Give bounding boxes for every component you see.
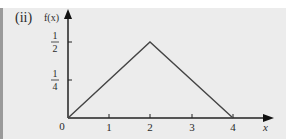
- y-tick-label-half: 1 2: [51, 30, 59, 54]
- svg-text:2: 2: [53, 43, 58, 54]
- y-axis-arrow-icon: [64, 9, 72, 19]
- y-tick-label-quarter: 1 4: [51, 68, 59, 92]
- x-tick-label-2: 2: [147, 121, 153, 133]
- chart-svg: 0 1 2 3 4 1 2 1 4 f(x) x: [0, 0, 286, 139]
- origin-label: 0: [59, 120, 65, 132]
- y-axis-label: f(x): [44, 12, 59, 24]
- svg-text:1: 1: [53, 68, 58, 79]
- svg-text:1: 1: [53, 30, 58, 41]
- x-tick-label-4: 4: [230, 121, 236, 133]
- triangle-curve: [68, 42, 233, 118]
- x-tick-label-3: 3: [189, 121, 195, 133]
- x-axis-label: x: [262, 121, 268, 133]
- svg-text:4: 4: [53, 81, 58, 92]
- x-tick-label-1: 1: [106, 121, 112, 133]
